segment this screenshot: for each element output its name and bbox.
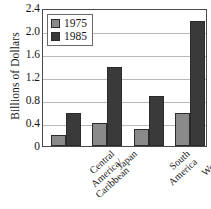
bar-group [172, 10, 211, 146]
x-axis-category-label: WesternEurope [200, 148, 211, 186]
y-axis-tick-label: 1.2 [26, 72, 40, 84]
y-axis-tick-label: 0 [34, 141, 40, 153]
y-axis-tick-label: 2.4 [26, 3, 40, 15]
bar-group [131, 10, 172, 146]
bar-chart: Billions of Dollars 00.40.81.21.62.02.4 … [0, 0, 211, 209]
legend-item-label: 1975 [64, 18, 87, 30]
bar-group [89, 10, 130, 146]
x-axis-category-labels: CentralAmerica/CaribbeanJapanSouthAmeric… [42, 148, 207, 209]
x-axis-category-label-line: Western [200, 148, 211, 178]
y-axis-tick-labels: 00.40.81.21.62.02.4 [14, 0, 40, 209]
bar[interactable] [190, 21, 205, 146]
legend-swatch-icon [51, 19, 60, 28]
legend-item-label: 1985 [64, 31, 87, 43]
bar[interactable] [51, 135, 66, 146]
bar[interactable] [134, 129, 149, 146]
legend: 19751985 [47, 14, 93, 46]
x-axis-category-label: SouthAmerica [159, 148, 199, 187]
y-axis-tick-label: 1.6 [26, 49, 40, 61]
y-axis-tick-label: 0.4 [26, 118, 40, 130]
legend-item[interactable]: 1975 [51, 17, 87, 30]
plot-area: 19751985 [42, 9, 207, 147]
bar[interactable] [107, 67, 122, 146]
y-axis-tick-label: 2.0 [26, 26, 40, 38]
legend-item[interactable]: 1985 [51, 30, 87, 43]
bar[interactable] [92, 123, 107, 146]
bar[interactable] [149, 96, 164, 146]
y-axis-tick-label: 0.8 [26, 95, 40, 107]
legend-swatch-icon [51, 32, 60, 41]
bar[interactable] [175, 113, 190, 146]
bar[interactable] [66, 113, 81, 146]
